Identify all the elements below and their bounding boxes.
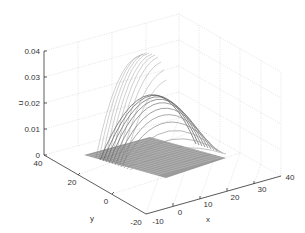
y-tick-label: 20 (68, 178, 77, 187)
x-axis-label: x (206, 215, 210, 224)
z-tick-label: 0.04 (24, 47, 40, 56)
x-tick-label: 20 (231, 193, 240, 202)
z-tick-label: 0.03 (24, 73, 40, 82)
y-ticks (78, 173, 114, 194)
x-tick-label: 30 (258, 185, 267, 194)
x-tick-label: 0 (178, 208, 183, 217)
x-tick-label: 40 (286, 173, 295, 182)
surface-plot: 0.04 0.03 0.02 0.01 0 u 40 20 0 -20 y -1… (0, 0, 305, 233)
z-tick-label: 0.02 (24, 99, 40, 108)
z-ticks (44, 51, 47, 155)
z-axis-label: u (16, 101, 25, 105)
y-tick-label: 0 (104, 197, 109, 206)
x-tick-label: 10 (204, 200, 213, 209)
y-axis-label: y (90, 214, 94, 223)
z-tick-label: 0.01 (24, 125, 40, 134)
x-tick-label: -10 (152, 217, 164, 226)
y-tick-label: -20 (130, 218, 142, 227)
y-tick-label: 40 (34, 159, 43, 168)
x-ticks (173, 181, 254, 206)
grid-lines (44, 14, 281, 214)
